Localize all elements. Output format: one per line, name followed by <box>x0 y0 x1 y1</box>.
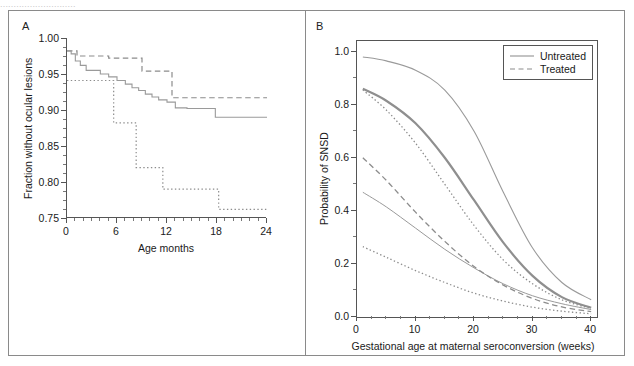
y-tick-minor <box>353 183 356 184</box>
x-tick-major <box>532 316 533 321</box>
y-tick-minor <box>63 47 66 48</box>
panel-b-x-axis-title: Gestational age at maternal seroconversi… <box>328 340 618 352</box>
x-tick-major <box>356 316 357 321</box>
x-tick-minor <box>224 218 225 221</box>
panel-b-letter: B <box>316 20 323 32</box>
x-tick-label: 40 <box>584 323 596 335</box>
panel-b-series <box>363 192 591 309</box>
y-tick-major <box>351 210 356 211</box>
x-tick-minor <box>258 218 259 221</box>
y-tick-minor <box>63 119 66 120</box>
x-tick-label: 12 <box>160 225 172 237</box>
x-tick-minor <box>183 218 184 221</box>
y-tick-major <box>61 182 66 183</box>
panel-a-curves <box>67 38 267 218</box>
y-tick-label: 0.0 <box>334 310 349 322</box>
y-tick-minor <box>63 137 66 138</box>
x-tick-minor <box>208 218 209 221</box>
x-tick-label: 30 <box>526 323 538 335</box>
y-tick-minor <box>353 289 356 290</box>
x-tick-minor <box>546 316 547 319</box>
legend-label-treated: Treated <box>540 63 576 75</box>
x-tick-minor <box>400 316 401 319</box>
x-tick-minor <box>99 218 100 221</box>
panel-a-x-axis-title: Age months <box>66 242 266 254</box>
y-tick-minor <box>63 56 66 57</box>
legend-key-solid <box>509 51 535 61</box>
y-tick-major <box>351 104 356 105</box>
x-tick-minor <box>124 218 125 221</box>
panel-b: B Probability of SNSD Untreated Treated <box>306 10 625 356</box>
y-tick-label: 0.2 <box>334 257 349 269</box>
y-tick-major <box>61 146 66 147</box>
x-tick-minor <box>199 218 200 221</box>
y-tick-label: 0.85 <box>39 140 59 152</box>
x-tick-label: 0 <box>63 225 69 237</box>
panel-b-series <box>363 90 591 308</box>
panel-b-plot-area: Untreated Treated <box>356 40 598 318</box>
x-tick-minor <box>191 218 192 221</box>
y-tick-minor <box>63 155 66 156</box>
x-tick-major <box>66 218 67 223</box>
y-tick-minor <box>63 173 66 174</box>
y-tick-minor <box>63 83 66 84</box>
x-tick-minor <box>561 316 562 319</box>
y-tick-major <box>351 51 356 52</box>
x-tick-major <box>166 218 167 223</box>
x-tick-minor <box>158 218 159 221</box>
x-tick-minor <box>74 218 75 221</box>
y-tick-minor <box>63 128 66 129</box>
y-tick-major <box>61 38 66 39</box>
y-tick-minor <box>63 101 66 102</box>
y-tick-major <box>351 157 356 158</box>
y-tick-minor <box>63 200 66 201</box>
y-tick-minor <box>63 164 66 165</box>
y-tick-label: 0.90 <box>39 104 59 116</box>
x-tick-label: 20 <box>467 323 479 335</box>
y-tick-minor <box>63 92 66 93</box>
x-tick-major <box>590 316 591 321</box>
y-tick-major <box>61 110 66 111</box>
y-tick-label: 1.00 <box>39 32 59 44</box>
legend-item-treated: Treated <box>509 62 586 75</box>
y-tick-label: 0.80 <box>39 176 59 188</box>
panel-b-series <box>363 247 591 314</box>
x-tick-minor <box>83 218 84 221</box>
y-tick-label: 0.4 <box>334 204 349 216</box>
figure-root: ............................ A Fraction … <box>0 0 634 366</box>
panel-a: A Fraction without ocular lesions Age mo… <box>8 10 305 356</box>
y-tick-minor <box>353 236 356 237</box>
panel-b-y-axis-title: Probability of SNSD <box>318 132 330 225</box>
y-tick-label: 1.0 <box>334 45 349 57</box>
x-tick-minor <box>429 316 430 319</box>
x-tick-minor <box>233 218 234 221</box>
panel-a-series <box>67 51 267 117</box>
y-tick-label: 0.75 <box>39 212 59 224</box>
x-tick-minor <box>91 218 92 221</box>
x-tick-label: 10 <box>409 323 421 335</box>
x-tick-minor <box>502 316 503 319</box>
x-tick-major <box>216 218 217 223</box>
x-tick-minor <box>241 218 242 221</box>
panel-a-letter: A <box>22 20 29 32</box>
x-tick-minor <box>576 316 577 319</box>
x-tick-minor <box>385 316 386 319</box>
legend-label-untreated: Untreated <box>540 50 586 62</box>
x-tick-major <box>415 316 416 321</box>
y-tick-minor <box>63 209 66 210</box>
x-tick-minor <box>133 218 134 221</box>
panel-b-legend: Untreated Treated <box>503 45 593 80</box>
legend-item-untreated: Untreated <box>509 49 586 62</box>
y-tick-minor <box>353 77 356 78</box>
panel-b-series <box>363 158 591 312</box>
y-tick-major <box>351 316 356 317</box>
panel-a-series <box>67 51 267 98</box>
x-tick-minor <box>488 316 489 319</box>
x-tick-major <box>473 316 474 321</box>
x-tick-major <box>116 218 117 223</box>
panel-a-y-axis-title: Fraction without ocular lesions <box>22 57 34 198</box>
y-tick-label: 0.6 <box>334 151 349 163</box>
y-tick-label: 0.8 <box>334 98 349 110</box>
x-tick-minor <box>174 218 175 221</box>
y-tick-major <box>61 218 66 219</box>
